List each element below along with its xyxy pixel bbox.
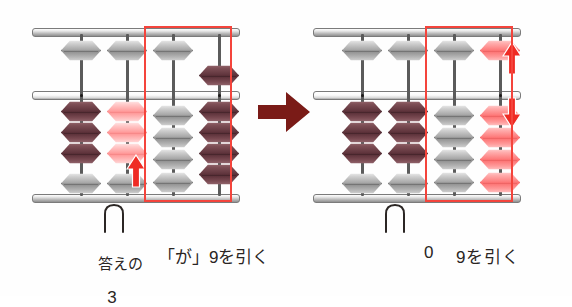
- unit-dot: [80, 94, 83, 97]
- heaven-bead[interactable]: [107, 39, 147, 62]
- left-abacus: [32, 28, 240, 203]
- earth-bead-highlight[interactable]: [107, 100, 147, 123]
- earth-bead-highlight[interactable]: [107, 121, 147, 144]
- up-arrow-icon: [126, 154, 146, 188]
- finger-mark-icon: [382, 203, 408, 233]
- earth-bead[interactable]: [342, 142, 382, 165]
- earth-bead[interactable]: [342, 121, 382, 144]
- right-result-digit: 0: [424, 243, 434, 263]
- finger-mark-icon: [101, 203, 127, 233]
- heaven-bead[interactable]: [342, 39, 382, 62]
- right-abacus: [313, 28, 521, 203]
- unit-dot: [361, 94, 364, 97]
- earth-bead[interactable]: [388, 100, 428, 123]
- highlight-box: [425, 26, 513, 202]
- answer-label: 答えの: [98, 255, 143, 272]
- right-arrow-icon: [256, 88, 312, 136]
- earth-bead[interactable]: [61, 142, 101, 165]
- earth-bead[interactable]: [61, 172, 101, 195]
- earth-bead[interactable]: [342, 172, 382, 195]
- earth-bead[interactable]: [388, 172, 428, 195]
- earth-bead[interactable]: [61, 121, 101, 144]
- earth-bead[interactable]: [342, 100, 382, 123]
- right-action-caption: 9を引く: [456, 243, 520, 268]
- heaven-bead[interactable]: [388, 39, 428, 62]
- left-answer-caption: 答えの 3: [66, 238, 158, 307]
- earth-bead[interactable]: [388, 121, 428, 144]
- left-action-caption: 「が」9を引く: [158, 243, 269, 268]
- heaven-bead[interactable]: [61, 39, 101, 62]
- earth-bead[interactable]: [388, 142, 428, 165]
- highlight-box: [144, 26, 232, 202]
- answer-value: 3: [66, 289, 158, 306]
- earth-bead[interactable]: [61, 100, 101, 123]
